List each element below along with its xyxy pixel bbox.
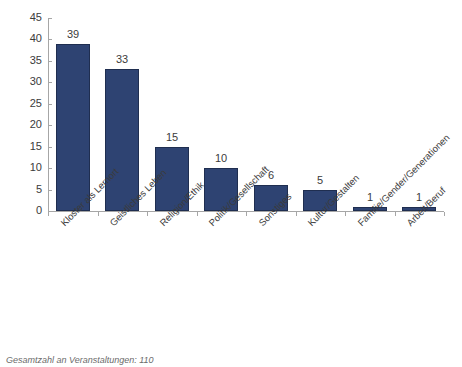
bar-value-label: 33 [102,54,142,65]
y-axis-tick-label: 20 [0,119,42,130]
bar-value-label: 15 [152,132,192,143]
x-axis-tick [98,212,99,216]
y-axis-tick-label: 35 [0,55,42,66]
x-axis-tick [395,212,396,216]
y-axis-tick [48,82,52,83]
y-axis-tick-label: 25 [0,98,42,109]
y-axis-tick [48,125,52,126]
y-axis-tick [48,190,52,191]
y-axis-tick-label: 10 [0,162,42,173]
bar-value-label: 39 [53,29,93,40]
x-axis-tick [345,212,346,216]
y-axis-tick [48,39,52,40]
x-axis-tick [246,212,247,216]
chart-footnote: Gesamtzahl an Veranstaltungen: 110 [6,355,154,367]
y-axis-tick-label: 30 [0,76,42,87]
chart-title [0,0,462,4]
y-axis-tick [48,147,52,148]
x-axis-tick [147,212,148,216]
y-axis-tick-label: 45 [0,12,42,23]
y-axis-tick-label: 40 [0,33,42,44]
bar [105,69,139,211]
y-axis-tick-label: 5 [0,184,42,195]
y-axis-tick-label: 15 [0,141,42,152]
y-axis-tick [48,61,52,62]
x-axis-tick [444,212,445,216]
bar-chart: 051015202530354045 393315106511 Kloster … [0,0,462,367]
y-axis-tick [48,18,52,19]
x-axis-tick [296,212,297,216]
bar-value-label: 5 [300,175,340,186]
x-axis-tick [48,212,49,216]
bar-value-label: 10 [201,153,241,164]
x-axis-category-label: Familie/Gender/Generationen [356,133,452,229]
bar [56,44,90,211]
y-axis-tick-label: 0 [0,205,42,216]
y-axis-tick [48,104,52,105]
y-axis-line [48,18,49,212]
y-axis-tick [48,168,52,169]
x-axis-tick [197,212,198,216]
